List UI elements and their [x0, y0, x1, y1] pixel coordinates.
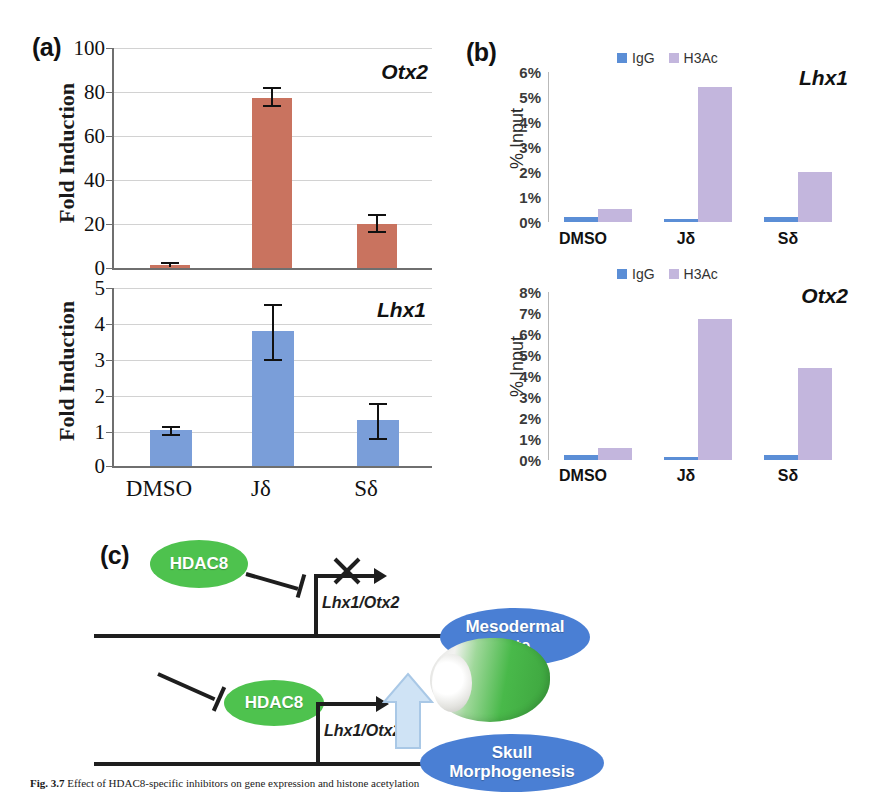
error-cap	[369, 403, 387, 405]
legend-label-igg: IgG	[632, 50, 655, 66]
y-tick-label: 5	[95, 276, 106, 301]
y-tick-label: 6%	[519, 64, 541, 81]
y-axis	[112, 48, 114, 270]
chart-b-lhx1: % Input 6% 5% 4% 3% 2% 1% 0% Lhx1	[548, 72, 850, 222]
y-tick-label: 6%	[519, 326, 541, 343]
error-cap	[368, 231, 386, 233]
y-tick-label: 40	[84, 168, 105, 193]
panel-a-letter: (a)	[32, 33, 61, 62]
bar-h3ac-dmso	[598, 209, 632, 222]
chart-b-otx2: % Input 8% 7% 6% 5% 4% 3% 2% 1% 0% Otx2	[548, 292, 850, 460]
bar-h3ac-sdelta	[798, 368, 832, 460]
error-cap	[368, 214, 386, 216]
chart-a-otx2-ylabel: Fold Induction	[54, 68, 80, 238]
y-axis	[112, 288, 114, 468]
y-tick-label: 4%	[519, 114, 541, 131]
bar-igg-sdelta	[764, 455, 798, 460]
error-bar	[272, 305, 274, 361]
bar-igg-dmso	[564, 455, 598, 460]
gridline	[112, 48, 432, 49]
legend-item-igg: IgG	[617, 50, 655, 66]
y-tick-label: 4	[95, 312, 106, 337]
chart-b-otx2-title: Otx2	[801, 284, 848, 308]
inhibitor-line-bottom	[157, 672, 215, 701]
error-cap	[263, 105, 281, 107]
tickmark	[106, 180, 112, 181]
chart-a-lhx1-ylabel: Fold Induction	[54, 286, 80, 456]
bar-jdelta	[252, 98, 292, 268]
tickmark	[106, 360, 112, 361]
y-tick-label: 3%	[519, 139, 541, 156]
hdac8-oval-bottom: HDAC8	[224, 680, 324, 726]
y-tick-label: 2	[95, 384, 106, 409]
y-tick-label: 3	[95, 348, 106, 373]
error-cap	[369, 438, 387, 440]
xlabel-dmso: DMSO	[534, 230, 632, 248]
bar-igg-jdelta	[664, 457, 698, 460]
promoter-stem-top	[314, 574, 318, 636]
legend-item-h3ac: H3Ac	[669, 50, 718, 66]
bar-igg-sdelta	[764, 217, 798, 222]
legend-label-igg: IgG	[632, 266, 655, 282]
outcome-label-line1: Skull	[492, 744, 533, 763]
bar-h3ac-jdelta	[698, 87, 732, 222]
tickmark	[106, 396, 112, 397]
tickmark	[106, 288, 112, 289]
y-tick-label: 20	[84, 212, 105, 237]
y-tick-label: 80	[84, 80, 105, 105]
dna-line-bottom	[94, 762, 462, 766]
xlabel-sdelta: Sδ	[742, 467, 834, 485]
legend-b-lhx1: IgG H3Ac	[617, 50, 718, 66]
diagram-top: HDAC8 Lhx1/Otx2 Mesodermal fate	[120, 520, 590, 630]
xlabel-dmso: DMSO	[534, 467, 632, 485]
legend-item-h3ac: H3Ac	[669, 266, 718, 282]
y-tick-label: 2%	[519, 410, 541, 427]
y-tick-label: 5%	[519, 347, 541, 364]
hdac8-label: HDAC8	[245, 694, 304, 713]
bar-igg-jdelta	[664, 219, 698, 222]
tickmark	[106, 268, 112, 269]
figure-caption: Fig. 3.7 Effect of HDAC8-specific inhibi…	[30, 777, 850, 791]
promoter-arm-bottom	[316, 702, 378, 706]
y-tick-label: 1%	[519, 431, 541, 448]
tickmark	[106, 466, 112, 467]
tickmark	[106, 92, 112, 93]
h3ac-swatch-icon	[669, 269, 679, 279]
diagram-bottom: HDAC8 Lhx1/Otx2 Skull Morphogenesis	[120, 650, 590, 770]
y-tick-label: 100	[74, 36, 106, 61]
gene-label-top: Lhx1/Otx2	[322, 594, 399, 612]
y-tick-label: 8%	[519, 284, 541, 301]
hdac8-oval-top: HDAC8	[150, 540, 248, 588]
xlabel-dmso: DMSO	[118, 476, 200, 502]
chart-a-lhx1: Fold Induction 5 4 3 2 1 0 Lhx1	[112, 288, 432, 468]
y-tick-label: 60	[84, 124, 105, 149]
error-cap	[264, 304, 282, 306]
y-tick-label: 2%	[519, 164, 541, 181]
upregulation-arrow-icon	[382, 672, 434, 754]
tickmark	[106, 48, 112, 49]
promoter-stem-bottom	[316, 702, 320, 764]
bar-h3ac-jdelta	[698, 319, 732, 460]
xlabel-jdelta: Jδ	[640, 467, 732, 485]
x-axis	[112, 268, 432, 270]
error-bar	[377, 404, 379, 440]
bar-h3ac-dmso	[598, 448, 632, 460]
tickmark	[106, 432, 112, 433]
y-tick-label: 7%	[519, 305, 541, 322]
error-cap	[263, 87, 281, 89]
error-cap	[162, 426, 180, 428]
error-cap	[162, 434, 180, 436]
gridline	[112, 288, 432, 289]
tickmark	[106, 324, 112, 325]
error-cap	[264, 359, 282, 361]
legend-label-h3ac: H3Ac	[684, 50, 718, 66]
y-tick-label: 3%	[519, 389, 541, 406]
tickmark	[106, 136, 112, 137]
chart-b-lhx1-title: Lhx1	[799, 66, 848, 90]
panel-b-letter: (b)	[466, 38, 496, 67]
igg-swatch-icon	[617, 269, 627, 279]
hdac8-label: HDAC8	[170, 555, 229, 574]
y-tick-label: 1	[95, 420, 106, 445]
chart-a-otx2: Fold Induction 100 80 60 40 20 0 Otx2	[112, 48, 432, 270]
y-axis	[548, 72, 549, 222]
